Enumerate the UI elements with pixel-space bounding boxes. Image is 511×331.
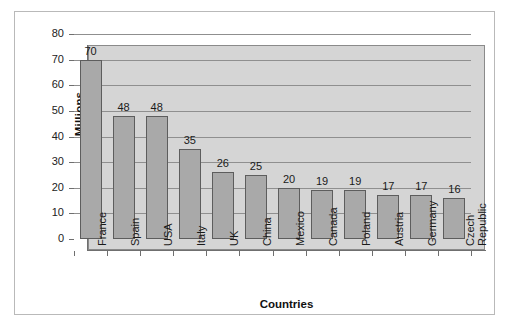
x-axis-category-label: Canada xyxy=(327,207,339,246)
x-axis-category-label: China xyxy=(261,217,273,246)
bar-value-label: 16 xyxy=(434,183,474,195)
x-axis-category-label: Poland xyxy=(360,212,372,246)
x-axis-tick xyxy=(306,251,307,256)
y-axis-tick xyxy=(69,213,74,214)
y-axis-tick-label: 20 xyxy=(34,182,64,193)
x-axis-tick xyxy=(74,251,75,256)
x-axis-category-label: UK xyxy=(228,231,240,246)
y-axis-tick-label: 10 xyxy=(34,207,64,218)
bar xyxy=(146,116,168,239)
bar xyxy=(212,172,234,239)
x-axis-category-label: Germany xyxy=(426,201,438,246)
chart-figure-frame: 01020304050607080 Millions 7048483526252… xyxy=(14,11,495,315)
y-axis-tick xyxy=(69,188,74,189)
x-axis-tick xyxy=(438,251,439,256)
x-axis-tick xyxy=(273,251,274,256)
bar-value-label: 48 xyxy=(137,101,177,113)
bar-value-label: 70 xyxy=(71,45,111,57)
y-axis-tick-label: 80 xyxy=(34,28,64,39)
x-axis-category-label: Czech Republic xyxy=(464,200,488,246)
x-axis-tick xyxy=(140,251,141,256)
gridline xyxy=(74,34,471,35)
x-axis-title: Countries xyxy=(88,298,485,310)
gridline xyxy=(74,60,471,61)
x-axis-category-label: USA xyxy=(162,223,174,246)
y-axis-tick-label: 30 xyxy=(34,156,64,167)
x-axis-tick xyxy=(372,251,373,256)
bar-value-label: 35 xyxy=(170,134,210,146)
x-axis-category-label: Spain xyxy=(129,218,141,246)
y-axis-tick xyxy=(69,34,74,35)
y-axis-tick xyxy=(69,162,74,163)
y-axis-tick xyxy=(69,239,74,240)
x-axis-tick xyxy=(405,251,406,256)
x-axis-category-label: France xyxy=(96,212,108,246)
y-axis-tick xyxy=(69,60,74,61)
bar-value-label: 25 xyxy=(236,160,276,172)
bar xyxy=(443,198,465,239)
x-axis-tick xyxy=(339,251,340,256)
x-axis-tick xyxy=(173,251,174,256)
y-axis-tick-label: 40 xyxy=(34,131,64,142)
y-axis-tick-label: 70 xyxy=(34,54,64,65)
y-axis-tick-label: 50 xyxy=(34,105,64,116)
gridline xyxy=(74,85,471,86)
x-axis-tick xyxy=(206,251,207,256)
x-axis-category-label: Italy xyxy=(195,226,207,246)
x-axis-tick xyxy=(107,251,108,256)
y-axis-tick-label: 0 xyxy=(34,233,64,244)
x-axis-category-label: Mexico xyxy=(294,211,306,246)
x-axis-category-label: Austria xyxy=(393,212,405,246)
x-axis-tick xyxy=(471,251,472,256)
x-axis-line xyxy=(87,250,486,251)
x-axis-tick xyxy=(239,251,240,256)
y-axis-tick-label: 60 xyxy=(34,79,64,90)
